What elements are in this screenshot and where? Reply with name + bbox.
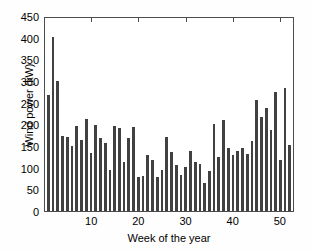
x-tick-mark-top: [91, 18, 92, 22]
x-tick-label: 30: [171, 215, 201, 227]
x-axis-label: Week of the year: [44, 232, 294, 244]
bar: [287, 145, 292, 211]
x-tick-mark-top: [138, 18, 139, 22]
x-tick-mark: [91, 208, 92, 212]
y-tick-label: 250: [5, 98, 39, 110]
x-tick-label: 50: [265, 215, 295, 227]
y-tick-label: 450: [5, 11, 39, 23]
x-tick-mark-top: [280, 18, 281, 22]
bar-series: [45, 18, 293, 211]
x-tick-mark: [138, 208, 139, 212]
x-tick-mark: [280, 208, 281, 212]
wind-power-bar-chart: Wind power (kW) 050100150200250300350400…: [0, 0, 312, 251]
y-tick-label: 150: [5, 141, 39, 153]
y-tick-label: 200: [5, 119, 39, 131]
x-tick-mark-top: [186, 18, 187, 22]
y-tick-label: 300: [5, 76, 39, 88]
x-tick-mark: [233, 208, 234, 212]
y-tick-label: 50: [5, 184, 39, 196]
y-tick-label: 100: [5, 163, 39, 175]
y-tick-label: 0: [5, 206, 39, 218]
x-tick-label: 40: [218, 215, 248, 227]
plot-area: [44, 17, 294, 212]
x-tick-mark-top: [233, 18, 234, 22]
y-tick-label: 350: [5, 54, 39, 66]
y-tick-label: 400: [5, 33, 39, 45]
x-tick-mark: [186, 208, 187, 212]
x-tick-label: 20: [123, 215, 153, 227]
x-tick-label: 10: [76, 215, 106, 227]
